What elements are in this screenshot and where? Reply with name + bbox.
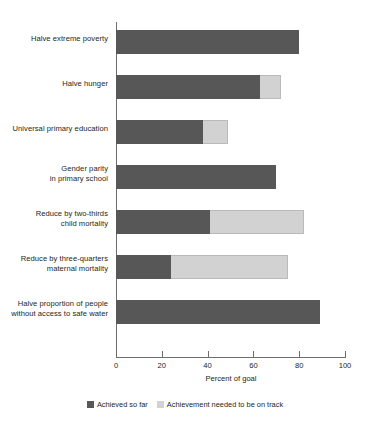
x-tick-80: [299, 351, 300, 358]
legend-label-needed: Achievement needed to be on track: [167, 400, 283, 409]
bar-row-6: [116, 300, 345, 324]
bar-segment-achieved-0: [116, 30, 299, 54]
x-tick-label-100: 100: [330, 361, 360, 370]
bar-segment-needed-4: [210, 210, 304, 234]
stacked-bar-0: [116, 30, 299, 54]
bar-row-4: [116, 210, 345, 234]
bar-segment-achieved-3: [116, 165, 276, 189]
bar-row-5: [116, 255, 345, 279]
bar-segment-needed-5: [171, 255, 288, 279]
category-label-4: Reduce by two-thirds child mortality: [0, 209, 108, 228]
bar-segment-needed-2: [203, 120, 228, 144]
stacked-bar-2: [116, 120, 228, 144]
bar-row-1: [116, 75, 345, 99]
bar-row-0: [116, 30, 345, 54]
bar-segment-achieved-5: [116, 255, 171, 279]
x-tick-60: [253, 351, 254, 358]
category-label-2: Universal primary education: [0, 124, 108, 134]
bar-segment-needed-1: [260, 75, 281, 99]
category-label-0: Halve extreme poverty: [0, 34, 108, 44]
chart-legend: Achieved so far Achievement needed to be…: [0, 400, 370, 409]
legend-item-achieved: Achieved so far: [87, 400, 148, 409]
bar-row-2: [116, 120, 345, 144]
category-label-3: Gender parity in primary school: [0, 164, 108, 183]
bar-segment-achieved-1: [116, 75, 260, 99]
x-tick-label-0: 0: [101, 361, 131, 370]
dark-gray-swatch-icon: [87, 401, 94, 408]
x-tick-label-80: 80: [284, 361, 314, 370]
x-tick-label-60: 60: [238, 361, 268, 370]
legend-item-needed: Achievement needed to be on track: [157, 400, 283, 409]
bar-row-3: [116, 165, 345, 189]
light-gray-swatch-icon: [157, 401, 164, 408]
bar-segment-achieved-2: [116, 120, 203, 144]
x-tick-label-40: 40: [193, 361, 223, 370]
x-tick-20: [162, 351, 163, 358]
x-tick-40: [208, 351, 209, 358]
stacked-bar-1: [116, 75, 281, 99]
x-tick-100: [345, 351, 346, 358]
x-axis-title: Percent of goal: [116, 374, 346, 383]
category-label-5: Reduce by three-quarters maternal mortal…: [0, 254, 108, 273]
stacked-bar-6: [116, 300, 320, 324]
category-label-1: Halve hunger: [0, 79, 108, 89]
legend-label-achieved: Achieved so far: [97, 400, 148, 409]
stacked-bar-5: [116, 255, 288, 279]
stacked-bar-4: [116, 210, 304, 234]
mdg-progress-bar-chart: Halve extreme poverty Halve hunger Unive…: [0, 0, 370, 436]
bar-segment-achieved-6: [116, 300, 320, 324]
bar-segment-achieved-4: [116, 210, 210, 234]
stacked-bar-3: [116, 165, 276, 189]
plot-area: [116, 22, 345, 352]
x-tick-0: [116, 351, 117, 358]
category-label-6: Halve proportion of people without acces…: [0, 299, 108, 318]
x-tick-label-20: 20: [147, 361, 177, 370]
x-axis-line: [116, 357, 346, 358]
